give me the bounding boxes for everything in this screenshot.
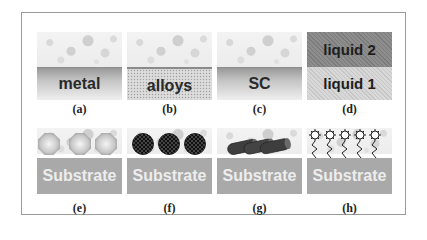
ligand-molecules-icon [307, 128, 392, 160]
panel-a: metal [37, 32, 122, 100]
substrate-layer: Substrate [37, 158, 122, 194]
liquid-bubbles [37, 32, 122, 67]
substrate-label: Substrate [223, 167, 297, 185]
substrate-label: Substrate [43, 167, 117, 185]
substrate-layer: Substrate [307, 158, 392, 194]
panel-e: Substrate [37, 128, 122, 194]
liquid1-layer: liquid 1 [307, 67, 392, 100]
caption-b: (b) [127, 102, 212, 117]
panel-b: alloys [127, 32, 212, 100]
semiconductor-layer: SC [217, 67, 302, 100]
octahedral-particle-icon [95, 133, 117, 155]
panel-d: liquid 2 liquid 1 [307, 32, 392, 100]
sc-label: SC [248, 75, 270, 93]
octahedral-particle-icon [38, 133, 60, 155]
caption-e: (e) [37, 201, 122, 216]
alloys-label: alloys [147, 77, 192, 95]
panel-f: Substrate [127, 128, 212, 194]
checkered-particle-icon [158, 133, 180, 155]
octahedral-particle-icon [69, 133, 91, 155]
caption-f: (f) [127, 201, 212, 216]
substrate-layer: Substrate [127, 158, 212, 194]
metal-label: metal [59, 75, 101, 93]
liquid2-label: liquid 2 [323, 41, 376, 58]
caption-h: (h) [307, 201, 392, 216]
liquid1-label: liquid 1 [323, 75, 376, 92]
caption-a: (a) [37, 102, 122, 117]
liquid-bubbles [217, 32, 302, 67]
checkered-particle-icon [132, 133, 154, 155]
metal-layer: metal [37, 67, 122, 100]
nanorods-icon [217, 128, 302, 158]
alloy-layer: alloys [127, 67, 212, 100]
panel-c: SC [217, 32, 302, 100]
caption-c: (c) [217, 102, 302, 117]
panel-g: Substrate [217, 128, 302, 194]
substrate-label: Substrate [133, 167, 207, 185]
substrate-label: Substrate [313, 167, 387, 185]
caption-d: (d) [307, 102, 392, 117]
liquid-bubbles [127, 32, 212, 67]
panel-h: Substrate [307, 128, 392, 194]
caption-g: (g) [217, 201, 302, 216]
substrate-layer: Substrate [217, 158, 302, 194]
checkered-particle-icon [184, 133, 206, 155]
liquid2-layer: liquid 2 [307, 32, 392, 67]
